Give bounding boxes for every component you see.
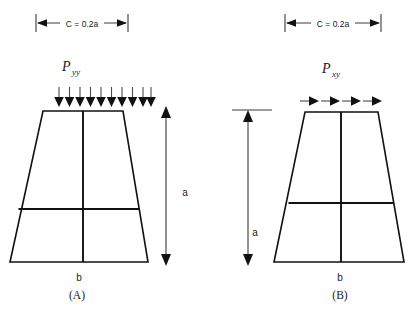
height-arrowhead-bottom xyxy=(161,254,171,266)
load-arrow xyxy=(107,87,117,107)
height-arrowhead-bottom xyxy=(243,254,253,266)
panel-a-trapezoid xyxy=(10,111,148,262)
load-subscript: xy xyxy=(331,69,340,79)
load-arrow xyxy=(65,87,75,107)
panel-a-load-label: P yy xyxy=(61,59,80,77)
panel-b-group: C = 0.2a P xy xyxy=(232,14,404,302)
load-symbol: P xyxy=(61,59,71,74)
panel-b-trapezoid xyxy=(274,112,404,262)
dim-arrowhead-right xyxy=(370,19,380,27)
figure-container: C = 0.2a P yy xyxy=(0,0,420,311)
panel-b-base-label: b xyxy=(337,272,343,283)
panel-b-dimension-c: C = 0.2a xyxy=(285,14,381,32)
load-arrow xyxy=(128,87,138,107)
load-arrow xyxy=(75,87,85,107)
panel-a-height-label: a xyxy=(182,187,188,198)
load-symbol: P xyxy=(321,61,331,76)
panel-a-group: C = 0.2a P yy xyxy=(10,14,188,302)
panel-a-height-dimension: a xyxy=(161,106,188,266)
load-arrow xyxy=(86,87,96,107)
dim-arrowhead-right xyxy=(117,19,127,27)
panel-a-caption: (A) xyxy=(69,289,85,302)
load-subscript: yy xyxy=(71,67,80,77)
panel-b-caption: (B) xyxy=(332,289,348,302)
panel-b-height-dimension: a xyxy=(232,110,272,266)
load-arrow xyxy=(321,96,340,106)
load-arrow xyxy=(117,87,127,107)
panel-b-load-label: P xy xyxy=(321,61,340,79)
height-arrowhead-top xyxy=(243,110,253,122)
panel-a-dimension-label: C = 0.2a xyxy=(66,19,99,29)
panel-b-load-arrows xyxy=(300,96,382,106)
dim-arrowhead-left xyxy=(286,19,296,27)
load-arrow xyxy=(54,87,64,107)
load-arrow xyxy=(363,96,382,106)
structural-loading-diagram: C = 0.2a P yy xyxy=(0,0,420,311)
load-arrow xyxy=(96,87,106,107)
panel-a-dimension-c: C = 0.2a xyxy=(36,14,128,32)
panel-b-dimension-label: C = 0.2a xyxy=(317,19,350,29)
panel-b-height-label: a xyxy=(252,227,258,238)
panel-a-load-arrows xyxy=(54,87,156,107)
load-arrow xyxy=(300,96,319,106)
panel-a-base-label: b xyxy=(76,272,82,283)
load-arrow xyxy=(342,96,361,106)
dim-arrowhead-left xyxy=(37,19,47,27)
height-arrowhead-top xyxy=(161,106,171,118)
load-arrow xyxy=(146,87,156,107)
